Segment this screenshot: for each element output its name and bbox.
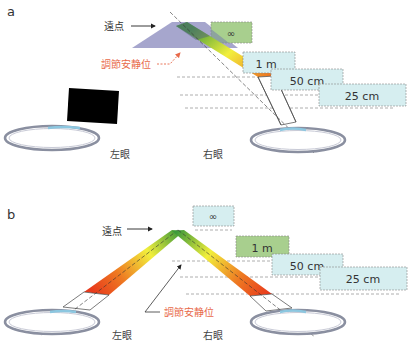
- left-eye-b: [5, 310, 99, 334]
- far-point-label: 遠点: [104, 20, 124, 32]
- right-eye-label: 右眼: [203, 329, 223, 341]
- right-eye-label: 右眼: [203, 148, 223, 160]
- left-eye-a: [5, 126, 99, 150]
- distance-label-25cm: 25 cm: [345, 90, 379, 103]
- left-eye-label: 左眼: [112, 329, 132, 341]
- distance-label-infinity: ∞: [209, 211, 217, 222]
- rest-accommodation-arrow: [145, 265, 181, 312]
- panel-b: b ∞ 1 m 50 cm 25 cm 遠点 調節安静位: [5, 206, 407, 341]
- panel-label-b: b: [7, 207, 15, 222]
- left-eye-label: 左眼: [110, 148, 130, 160]
- distance-label-50cm: 50 cm: [290, 260, 324, 273]
- right-eye-a: [251, 128, 345, 152]
- rest-accommodation-label: 調節安静位: [164, 306, 214, 318]
- rest-accommodation-arrow: [157, 53, 180, 64]
- right-eye-b: [251, 310, 345, 334]
- diagram-canvas: a ∞ 1 m 50 cm 25 cm 遠点 調節: [0, 0, 412, 353]
- distance-label-infinity: ∞: [227, 28, 235, 39]
- distance-label-1m: 1 m: [251, 242, 272, 255]
- rest-accommodation-label: 調節安静位: [101, 58, 151, 70]
- distance-label-25cm: 25 cm: [346, 273, 380, 286]
- panel-a: a ∞ 1 m 50 cm 25 cm 遠点 調節: [5, 4, 406, 160]
- distance-label-50cm: 50 cm: [290, 75, 324, 88]
- redacted-box: [67, 88, 119, 124]
- accommodation-beam-left: [84, 230, 184, 295]
- panel-label-a: a: [7, 4, 15, 19]
- far-point-label: 遠点: [102, 225, 122, 237]
